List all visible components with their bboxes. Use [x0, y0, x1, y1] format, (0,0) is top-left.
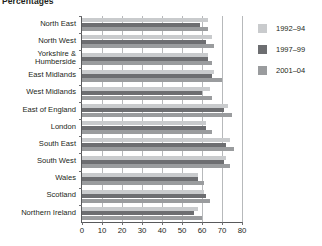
chart-legend: 1992–941997–992001–04: [258, 18, 322, 81]
category-tick: [79, 153, 82, 154]
axis-tick: [122, 222, 123, 225]
category-tick: [79, 50, 82, 51]
category-label: Wales: [0, 174, 76, 183]
category-tick: [79, 33, 82, 34]
legend-item: 1992–94: [258, 18, 322, 39]
axis-tick-label: 30: [138, 226, 147, 235]
category-label: South West: [0, 157, 76, 166]
value-axis-labels: 01020304050607080: [82, 226, 252, 240]
legend-label: 2001–04: [276, 66, 305, 75]
axis-tick-label: 0: [80, 226, 84, 235]
plot-area: [82, 16, 242, 222]
bar: [82, 113, 232, 117]
category-label: North East: [0, 20, 76, 29]
category-tick: [79, 119, 82, 120]
category-label: East of England: [0, 106, 76, 115]
bar: [82, 78, 222, 82]
legend-swatch-icon: [258, 66, 267, 75]
axis-tick: [222, 222, 223, 225]
chart-figure: Percentages 1992–941997–992001–04 North …: [0, 0, 322, 246]
category-tick: [79, 188, 82, 189]
axis-tick: [162, 222, 163, 225]
bar: [82, 199, 210, 203]
bar: [82, 96, 212, 100]
category-label: East Midlands: [0, 71, 76, 80]
legend-label: 1997–99: [276, 45, 305, 54]
axis-tick: [242, 222, 243, 225]
category-tick: [79, 136, 82, 137]
bar: [82, 181, 204, 185]
category-label: London: [0, 123, 76, 132]
axis-tick-label: 10: [98, 226, 107, 235]
axis-tick-label: 60: [198, 226, 207, 235]
category-label: Scotland: [0, 191, 76, 200]
axis-tick: [182, 222, 183, 225]
gridline: [222, 16, 223, 222]
axis-tick-label: 20: [118, 226, 127, 235]
bar: [82, 130, 212, 134]
axis-tick: [82, 222, 83, 225]
axis-tick-label: 80: [238, 226, 247, 235]
category-label: West Midlands: [0, 88, 76, 97]
axis-tick: [142, 222, 143, 225]
category-tick: [79, 205, 82, 206]
bar: [82, 44, 214, 48]
axis-tick-label: 50: [178, 226, 187, 235]
category-label: North West: [0, 37, 76, 46]
legend-swatch-icon: [258, 45, 267, 54]
legend-item: 1997–99: [258, 39, 322, 60]
bar: [82, 27, 208, 31]
category-label: South East: [0, 140, 76, 149]
category-tick: [79, 85, 82, 86]
bar: [82, 61, 212, 65]
axis-tick: [102, 222, 103, 225]
category-tick: [79, 16, 82, 17]
gridline: [242, 16, 243, 222]
category-label: Northern Ireland: [0, 209, 76, 218]
bar: [82, 164, 230, 168]
bar: [82, 216, 202, 220]
legend-swatch-icon: [258, 24, 267, 33]
legend-label: 1992–94: [276, 24, 305, 33]
bar: [82, 147, 234, 151]
category-label: Yorkshire & Humberside: [0, 50, 76, 67]
axis-tick-label: 40: [158, 226, 167, 235]
axis-tick-label: 70: [218, 226, 227, 235]
legend-item: 2001–04: [258, 60, 322, 81]
axis-tick: [202, 222, 203, 225]
category-tick: [79, 102, 82, 103]
page-title: Percentages: [2, 0, 54, 6]
